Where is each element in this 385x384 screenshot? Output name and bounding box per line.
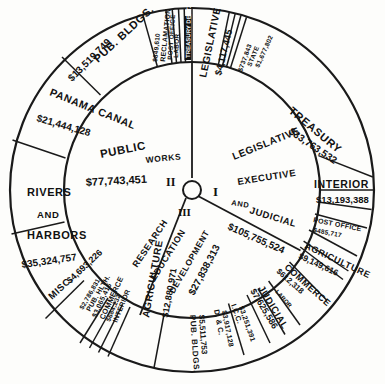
outer-post-office-amount: $485,717 [313, 226, 343, 239]
inner-and-label: AND [231, 198, 250, 210]
marker-two: II [166, 175, 176, 189]
inner-public-works-amount: $77,743,451 [85, 173, 147, 188]
center-hub [183, 181, 201, 199]
inner-executive-label: EXECUTIVE [237, 167, 297, 187]
inner-judicial-label: JUDICIAL [248, 204, 298, 229]
outer-panama-amount: $21,444,128 [35, 112, 92, 138]
outer-treasury-dept-label: TREASURY DEPT. [185, 6, 192, 58]
outer-rivers-amount: $35,324,757 [21, 251, 78, 270]
diagram-canvas: I II III PUBLIC WORKS $77,743,451 LEGISL… [0, 0, 385, 384]
outer-rivers-label-1: RIVERS [27, 186, 72, 198]
outer-pub-bldgs-amount: $13,519,749 [66, 36, 113, 83]
outer-interior-label: INTERIOR [314, 178, 369, 190]
outer-rivers-label-3: HARBORS [27, 229, 87, 241]
marker-one: I [213, 184, 218, 199]
circular-expenditure-diagram: I II III PUBLIC WORKS $77,743,451 LEGISL… [0, 0, 385, 384]
inner-public-works-label-2: WORKS [145, 151, 181, 165]
outer-rivers-label-2: AND [37, 209, 59, 220]
outer-interior-amount: $13,193,388 [316, 194, 369, 205]
inner-sector-dividers [140, 62, 301, 315]
inner-public-works-label-1: PUBLIC [99, 139, 147, 160]
marker-three: III [178, 206, 191, 218]
